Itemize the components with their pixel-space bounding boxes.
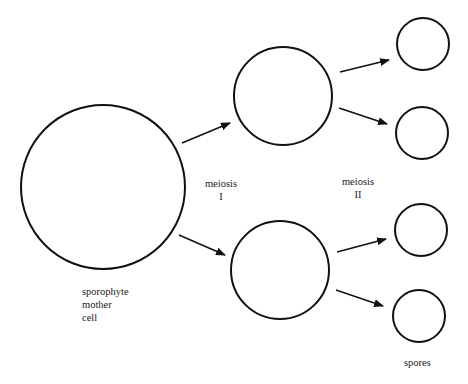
cell-spore-4 [393, 290, 445, 342]
cell-m1-bottom [231, 221, 329, 319]
mother-cell-label-line1: sporophyte [82, 285, 129, 298]
mother-cell-label-line2: mother [82, 298, 129, 311]
meiosis-2-label-line1: meiosis [333, 175, 383, 188]
mother-cell-label-line3: cell [82, 311, 129, 324]
arrow-m1-bottom-to-spore-3 [337, 239, 386, 252]
cell-spore-3 [395, 204, 447, 256]
meiosis-1-label: meiosis I [196, 177, 246, 203]
spores-label: spores [404, 356, 431, 369]
meiosis-1-label-line2: I [196, 190, 246, 203]
mother-cell-label: sporophyte mother cell [82, 285, 129, 324]
cell-spore-2 [396, 107, 448, 159]
cell-mother [21, 105, 185, 269]
meiosis-2-label-line2: II [333, 188, 383, 201]
arrow-mother-to-m1-bottom [179, 235, 225, 255]
cell-spore-1 [397, 18, 449, 70]
arrow-mother-to-m1-top [182, 123, 230, 143]
meiosis-2-label: meiosis II [333, 175, 383, 201]
arrow-m1-bottom-to-spore-4 [336, 290, 383, 306]
arrow-m1-top-to-spore-2 [339, 108, 387, 124]
meiosis-1-label-line1: meiosis [196, 177, 246, 190]
cell-m1-top [234, 47, 332, 145]
arrow-m1-top-to-spore-1 [340, 60, 389, 72]
